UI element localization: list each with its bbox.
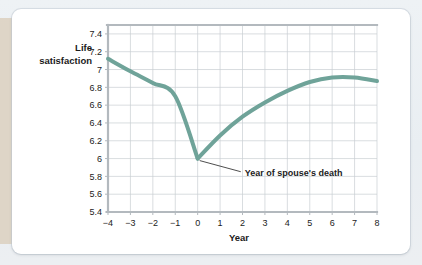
svg-text:4: 4 bbox=[285, 218, 290, 228]
svg-text:5.6: 5.6 bbox=[89, 189, 102, 199]
svg-text:7.4: 7.4 bbox=[89, 29, 102, 39]
svg-text:7.2: 7.2 bbox=[89, 47, 102, 57]
tick-marks bbox=[105, 34, 377, 215]
svg-text:Year of spouse's death: Year of spouse's death bbox=[245, 168, 343, 178]
svg-text:7: 7 bbox=[352, 218, 357, 228]
svg-text:−3: −3 bbox=[125, 218, 135, 228]
svg-text:3: 3 bbox=[262, 218, 267, 228]
y-tick-labels: 7.47.276.86.66.46.265.85.65.4 bbox=[89, 29, 102, 217]
svg-text:2: 2 bbox=[240, 218, 245, 228]
svg-text:8: 8 bbox=[374, 218, 379, 228]
svg-text:5.4: 5.4 bbox=[89, 207, 102, 217]
svg-text:7: 7 bbox=[97, 65, 102, 75]
svg-text:0: 0 bbox=[195, 218, 200, 228]
svg-text:6.8: 6.8 bbox=[89, 83, 102, 93]
svg-text:−2: −2 bbox=[148, 218, 158, 228]
svg-text:6.4: 6.4 bbox=[89, 118, 102, 128]
svg-text:6: 6 bbox=[330, 218, 335, 228]
annotation-spouse-death: Year of spouse's death bbox=[200, 161, 343, 178]
svg-text:−4: −4 bbox=[103, 218, 113, 228]
svg-text:−1: −1 bbox=[170, 218, 180, 228]
svg-text:1: 1 bbox=[218, 218, 223, 228]
svg-text:5.8: 5.8 bbox=[89, 172, 102, 182]
svg-text:6.6: 6.6 bbox=[89, 100, 102, 110]
svg-text:5: 5 bbox=[307, 218, 312, 228]
x-tick-labels: −4−3−2−1012345678 bbox=[103, 218, 380, 228]
svg-text:6.2: 6.2 bbox=[89, 136, 102, 146]
line-chart: 7.47.276.86.66.46.265.85.65.4 −4−3−2−101… bbox=[0, 0, 422, 265]
svg-text:6: 6 bbox=[97, 154, 102, 164]
